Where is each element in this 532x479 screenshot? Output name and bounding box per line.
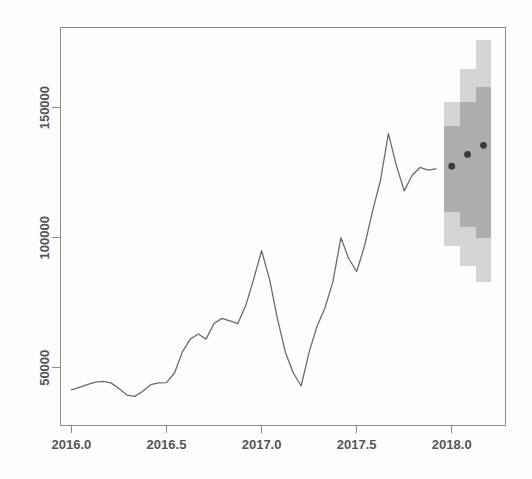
forecast-chart: 2016.02016.52017.02017.52018.0 500001000…	[0, 0, 532, 479]
x-tick-label: 2016.0	[52, 437, 92, 452]
forecast-point	[448, 163, 455, 170]
chart-canvas: 2016.02016.52017.02017.52018.0 500001000…	[0, 0, 532, 479]
y-tick-label: 50000	[37, 350, 52, 386]
x-tick-label: 2017.0	[242, 437, 282, 452]
band-step	[476, 87, 492, 238]
forecast-point	[480, 142, 487, 149]
x-tick-label: 2018.0	[432, 437, 472, 452]
y-tick-label: 150000	[37, 86, 52, 129]
x-tick-label: 2017.5	[337, 437, 377, 452]
band-step	[460, 102, 476, 227]
forecast-point	[464, 151, 471, 158]
y-tick-label: 100000	[37, 216, 52, 259]
x-tick-label: 2016.5	[147, 437, 187, 452]
